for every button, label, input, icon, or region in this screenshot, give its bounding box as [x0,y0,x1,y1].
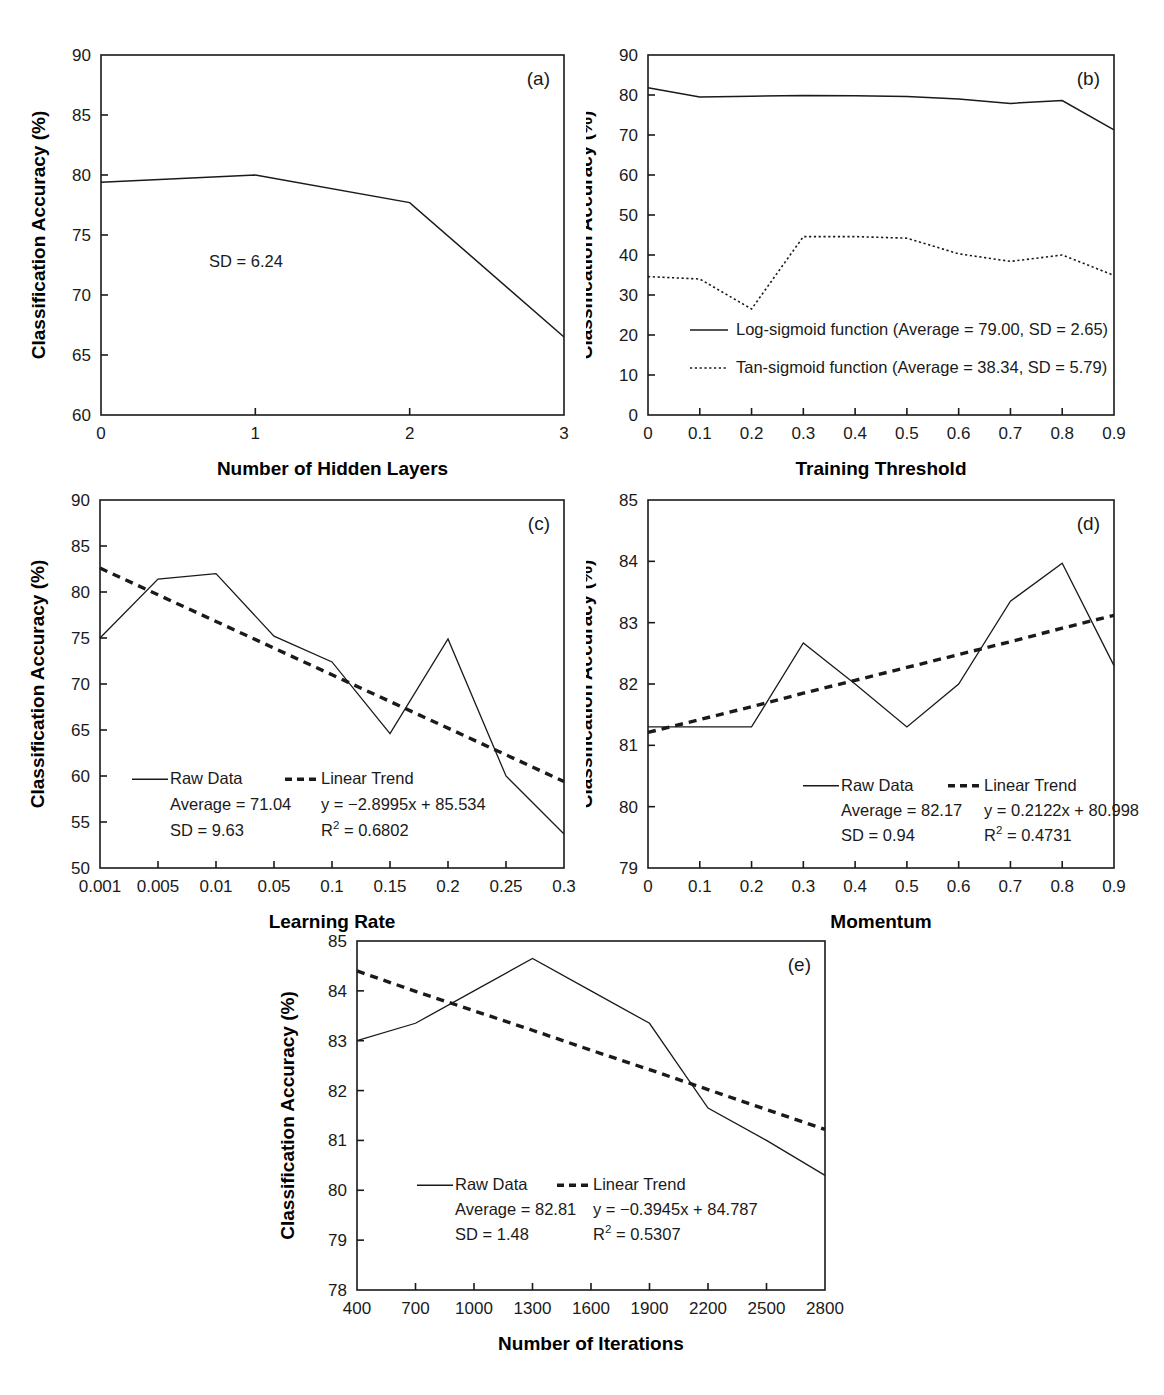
chart-panel-a: 606570758085900123(a)Classification Accu… [10,20,590,510]
annotation-average: Average = 82.81 [455,1200,576,1218]
chart-panel-e: 7879808182838485400700100013001600190022… [230,920,870,1395]
annotation-r-squared: R2 = 0.5307 [593,1223,681,1243]
multi-panel-figure: 606570758085900123(a)Classification Accu… [0,0,1164,1395]
y-tick-label: 60 [71,767,90,786]
y-tick-label: 90 [71,491,90,510]
y-tick-label: 50 [71,859,90,878]
x-tick-label: 0.1 [320,877,344,896]
x-tick-label: 2500 [748,1299,786,1318]
x-tick-label: 1 [251,424,260,443]
y-tick-label: 75 [71,629,90,648]
panel-label-b: (b) [1077,68,1100,89]
x-tick-label: 700 [401,1299,429,1318]
y-tick-label: 20 [619,326,638,345]
annotation-trend-equation: y = −0.3945x + 84.787 [593,1200,758,1218]
y-tick-label: 84 [619,552,638,571]
x-tick-label: 0.6 [947,424,971,443]
chart-panel-d: 7980818283848500.10.20.30.40.50.60.70.80… [586,488,1164,978]
y-axis-title: Classification Accuracy (%) [27,560,48,809]
series-line-log-sigmoid-function-average-79-00-sd-2-65 [648,88,1114,130]
x-tick-label: 0.2 [436,877,460,896]
x-tick-label: 0.9 [1102,424,1126,443]
y-tick-label: 81 [328,1131,347,1150]
series-line-raw-data [101,175,564,337]
x-tick-label: 1300 [514,1299,552,1318]
x-tick-label: 0.25 [489,877,522,896]
y-tick-label: 40 [619,246,638,265]
x-tick-label: 0.8 [1050,424,1074,443]
y-tick-label: 85 [71,537,90,556]
annotation-sd: SD = 6.24 [209,252,283,270]
panel-label-a: (a) [527,68,550,89]
y-tick-label: 84 [328,982,347,1001]
x-axis-title: Training Threshold [795,458,966,479]
y-tick-label: 78 [328,1281,347,1300]
x-tick-label: 0.8 [1050,877,1074,896]
y-tick-label: 79 [328,1231,347,1250]
annotation-average: Average = 82.17 [841,801,962,819]
y-tick-label: 85 [619,491,638,510]
series-line-raw-data [357,958,825,1175]
legend-label-linear-trend: Linear Trend [984,776,1077,794]
series-line-linear-trend [648,615,1114,732]
y-tick-label: 82 [619,675,638,694]
annotation-trend-equation: y = 0.2122x + 80.998 [984,801,1139,819]
panel-label-d: (d) [1077,513,1100,534]
plot-frame [357,941,825,1290]
y-tick-label: 83 [619,614,638,633]
plot-frame [101,55,564,415]
y-axis-title: Classification Accuracy (%) [586,111,596,360]
x-tick-label: 2200 [689,1299,727,1318]
x-axis-title: Number of Hidden Layers [217,458,448,479]
y-tick-label: 65 [72,346,91,365]
x-tick-label: 0 [643,877,652,896]
annotation-sd: SD = 1.48 [455,1225,529,1243]
x-tick-label: 3 [559,424,568,443]
x-tick-label: 0.5 [895,424,919,443]
x-tick-label: 0.3 [552,877,576,896]
annotation-average: Average = 71.04 [170,795,291,813]
x-tick-label: 1000 [455,1299,493,1318]
y-tick-label: 80 [619,86,638,105]
x-axis-title: Number of Iterations [498,1333,684,1354]
legend-label-linear-trend: Linear Trend [593,1175,686,1193]
y-tick-label: 10 [619,366,638,385]
x-tick-label: 2800 [806,1299,844,1318]
x-tick-label: 1600 [572,1299,610,1318]
panel-label-c: (c) [528,513,550,534]
y-tick-label: 70 [72,286,91,305]
x-tick-label: 0.005 [137,877,180,896]
x-tick-label: 0.4 [843,877,867,896]
y-tick-label: 80 [619,798,638,817]
x-tick-label: 0.6 [947,877,971,896]
y-tick-label: 90 [72,46,91,65]
y-tick-label: 60 [72,406,91,425]
y-tick-label: 83 [328,1032,347,1051]
x-tick-label: 0.3 [792,424,816,443]
y-tick-label: 85 [72,106,91,125]
x-tick-label: 0.01 [199,877,232,896]
y-tick-label: 75 [72,226,91,245]
legend-label-raw-data: Raw Data [170,769,243,787]
x-tick-label: 0.1 [688,424,712,443]
chart-panel-c: 5055606570758085900.0010.0050.010.050.10… [10,488,590,978]
y-tick-label: 70 [71,675,90,694]
y-tick-label: 65 [71,721,90,740]
x-tick-label: 400 [343,1299,371,1318]
x-tick-label: 1900 [631,1299,669,1318]
legend-label-raw-data: Raw Data [455,1175,528,1193]
x-tick-label: 0.7 [999,424,1023,443]
legend-label-raw-data: Raw Data [841,776,914,794]
y-tick-label: 82 [328,1082,347,1101]
y-tick-label: 80 [72,166,91,185]
x-tick-label: 0.9 [1102,877,1126,896]
y-tick-label: 30 [619,286,638,305]
y-tick-label: 85 [328,932,347,951]
series-line-raw-data [648,563,1114,727]
x-tick-label: 0.2 [740,424,764,443]
y-tick-label: 55 [71,813,90,832]
panel-label-e: (e) [788,954,811,975]
y-axis-title: Classification Accuracy (%) [277,991,298,1240]
annotation-r-squared: R2 = 0.6802 [321,819,409,839]
annotation-sd: SD = 0.94 [841,826,915,844]
